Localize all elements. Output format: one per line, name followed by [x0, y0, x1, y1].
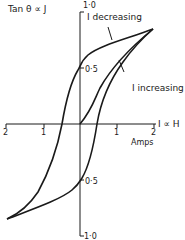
- arrow-decreasing: [108, 27, 112, 40]
- x-tick-neg2: 2: [3, 128, 8, 137]
- y-axis-label: Tan θ ∝ J: [7, 4, 46, 14]
- hysteresis-chart: Tan θ ∝ J I ∝ H Amps I decreasing I incr…: [0, 0, 185, 240]
- curve-initial: [80, 29, 153, 124]
- x-tick-pos2: 2: [151, 128, 156, 137]
- y-tick-pos1: 1·0: [83, 1, 96, 10]
- y-tick-neg1: 1·0: [84, 232, 97, 240]
- annotation-decreasing: I decreasing: [87, 12, 142, 22]
- annotation-increasing: I increasing: [132, 83, 184, 93]
- y-tick-neg05: 0·5: [85, 177, 98, 186]
- x-unit-label: Amps: [131, 138, 154, 147]
- x-tick-pos1: 1: [114, 128, 119, 137]
- x-tick-neg1: 1: [41, 128, 46, 137]
- x-axis-label: I ∝ H: [158, 119, 180, 129]
- y-tick-pos05: 0·5: [85, 65, 98, 74]
